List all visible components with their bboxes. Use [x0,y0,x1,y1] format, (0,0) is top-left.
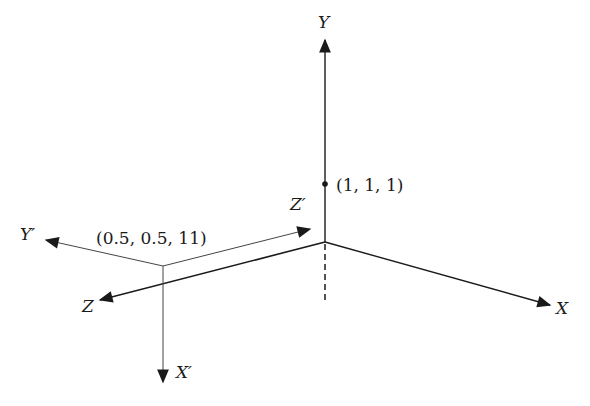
z-axis [100,242,325,300]
y-prime-axis-label: Y′ [20,224,35,244]
x-axis [325,242,550,305]
camera-position-label: (0.5, 0.5, 11) [96,228,207,248]
coordinate-diagram: Y X Z Y′ X′ Z′ (1, 1, 1) (0.5, 0.5, 11) [0,0,590,406]
point-label-1-1-1: (1, 1, 1) [336,175,403,195]
x-axis-label: X [554,298,569,318]
x-prime-axis-label: X′ [174,362,192,382]
y-axis-label: Y [318,12,331,32]
z-axis-label: Z [81,296,95,316]
point-1-1-1 [322,181,328,187]
diagram-canvas: Y X Z Y′ X′ Z′ (1, 1, 1) (0.5, 0.5, 11) [0,0,590,406]
z-prime-axis-label: Z′ [289,194,306,214]
